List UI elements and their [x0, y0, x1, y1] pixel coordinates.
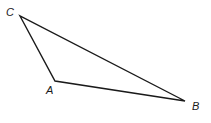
- triangle-diagram: A B C: [0, 0, 211, 123]
- vertex-label-a: A: [45, 84, 53, 96]
- vertex-label-c: C: [6, 6, 14, 18]
- triangle-abc: [20, 16, 185, 101]
- vertex-label-b: B: [192, 100, 199, 112]
